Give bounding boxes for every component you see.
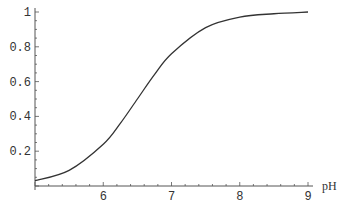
x-tick-label: 7 [168, 190, 175, 201]
x-axis-label: pH [322, 179, 337, 193]
tick-marks [35, 12, 308, 186]
y-tick-label: 0.8 [9, 41, 31, 55]
y-tick-label: 0.6 [9, 76, 31, 90]
y-tick-label: 1 [24, 6, 31, 20]
y-tick-label: 0.4 [9, 110, 31, 124]
x-tick-label: 8 [236, 190, 243, 201]
x-tick-label: 6 [100, 190, 107, 201]
x-tick-label: 9 [304, 190, 311, 201]
axes [35, 8, 313, 190]
data-line [35, 12, 308, 181]
chart: 67890.20.40.60.81 pH [0, 0, 342, 201]
y-tick-label: 0.2 [9, 145, 31, 159]
tick-labels: 67890.20.40.60.81 [9, 6, 311, 201]
